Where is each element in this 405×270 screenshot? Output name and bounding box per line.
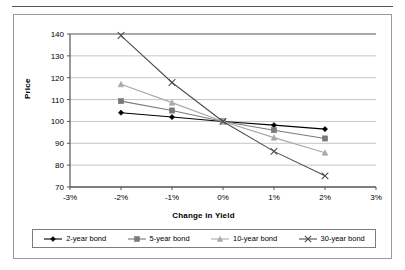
- legend-label: 5-year bond: [150, 235, 190, 243]
- diamond-marker-icon: [43, 234, 63, 244]
- plot-area: 708090100110120130140 -3%-2%-1%0%1%2%3%: [14, 15, 393, 260]
- svg-text:110: 110: [51, 96, 64, 105]
- svg-text:120: 120: [51, 74, 65, 83]
- svg-text:140: 140: [51, 30, 65, 39]
- svg-text:90: 90: [55, 139, 64, 148]
- svg-text:70: 70: [55, 183, 64, 192]
- chart-frame: 708090100110120130140 -3%-2%-1%0%1%2%3% …: [13, 14, 392, 259]
- svg-text:2%: 2%: [319, 193, 331, 202]
- svg-text:-1%: -1%: [165, 193, 179, 202]
- x-axis-title: Change in Yield: [14, 211, 393, 220]
- svg-text:100: 100: [51, 117, 65, 126]
- svg-text:3%: 3%: [370, 193, 382, 202]
- svg-text:80: 80: [55, 161, 64, 170]
- y-axis-title: Price: [23, 39, 32, 99]
- chart-legend: 2-year bond5-year bond10-year bond30-yea…: [32, 229, 376, 248]
- top-divider-rule: [12, 6, 393, 7]
- cross-x-marker-icon: [298, 234, 318, 244]
- legend-label: 10-year bond: [233, 235, 277, 243]
- legend-item-2-year-bond[interactable]: 2-year bond: [43, 234, 106, 244]
- axes: [67, 34, 376, 190]
- data-series: [118, 32, 329, 179]
- line-chart-svg: 708090100110120130140 -3%-2%-1%0%1%2%3%: [14, 15, 393, 260]
- svg-text:0%: 0%: [217, 193, 229, 202]
- svg-text:1%: 1%: [268, 193, 280, 202]
- triangle-marker-icon: [210, 234, 230, 244]
- svg-text:-3%: -3%: [63, 193, 77, 202]
- svg-text:-2%: -2%: [114, 193, 128, 202]
- series-10-year-bond: [118, 81, 328, 155]
- series-30-year-bond: [118, 32, 329, 179]
- gridlines: [70, 34, 376, 187]
- legend-item-5-year-bond[interactable]: 5-year bond: [127, 234, 190, 244]
- legend-label: 30-year bond: [321, 235, 365, 243]
- y-axis-tick-labels: 708090100110120130140: [51, 30, 65, 192]
- square-marker-icon: [127, 234, 147, 244]
- x-axis-tick-labels: -3%-2%-1%0%1%2%3%: [63, 193, 382, 202]
- legend-label: 2-year bond: [66, 235, 106, 243]
- legend-item-30-year-bond[interactable]: 30-year bond: [298, 234, 365, 244]
- legend-item-10-year-bond[interactable]: 10-year bond: [210, 234, 277, 244]
- chart-page: 708090100110120130140 -3%-2%-1%0%1%2%3% …: [0, 0, 405, 270]
- svg-text:130: 130: [51, 52, 65, 61]
